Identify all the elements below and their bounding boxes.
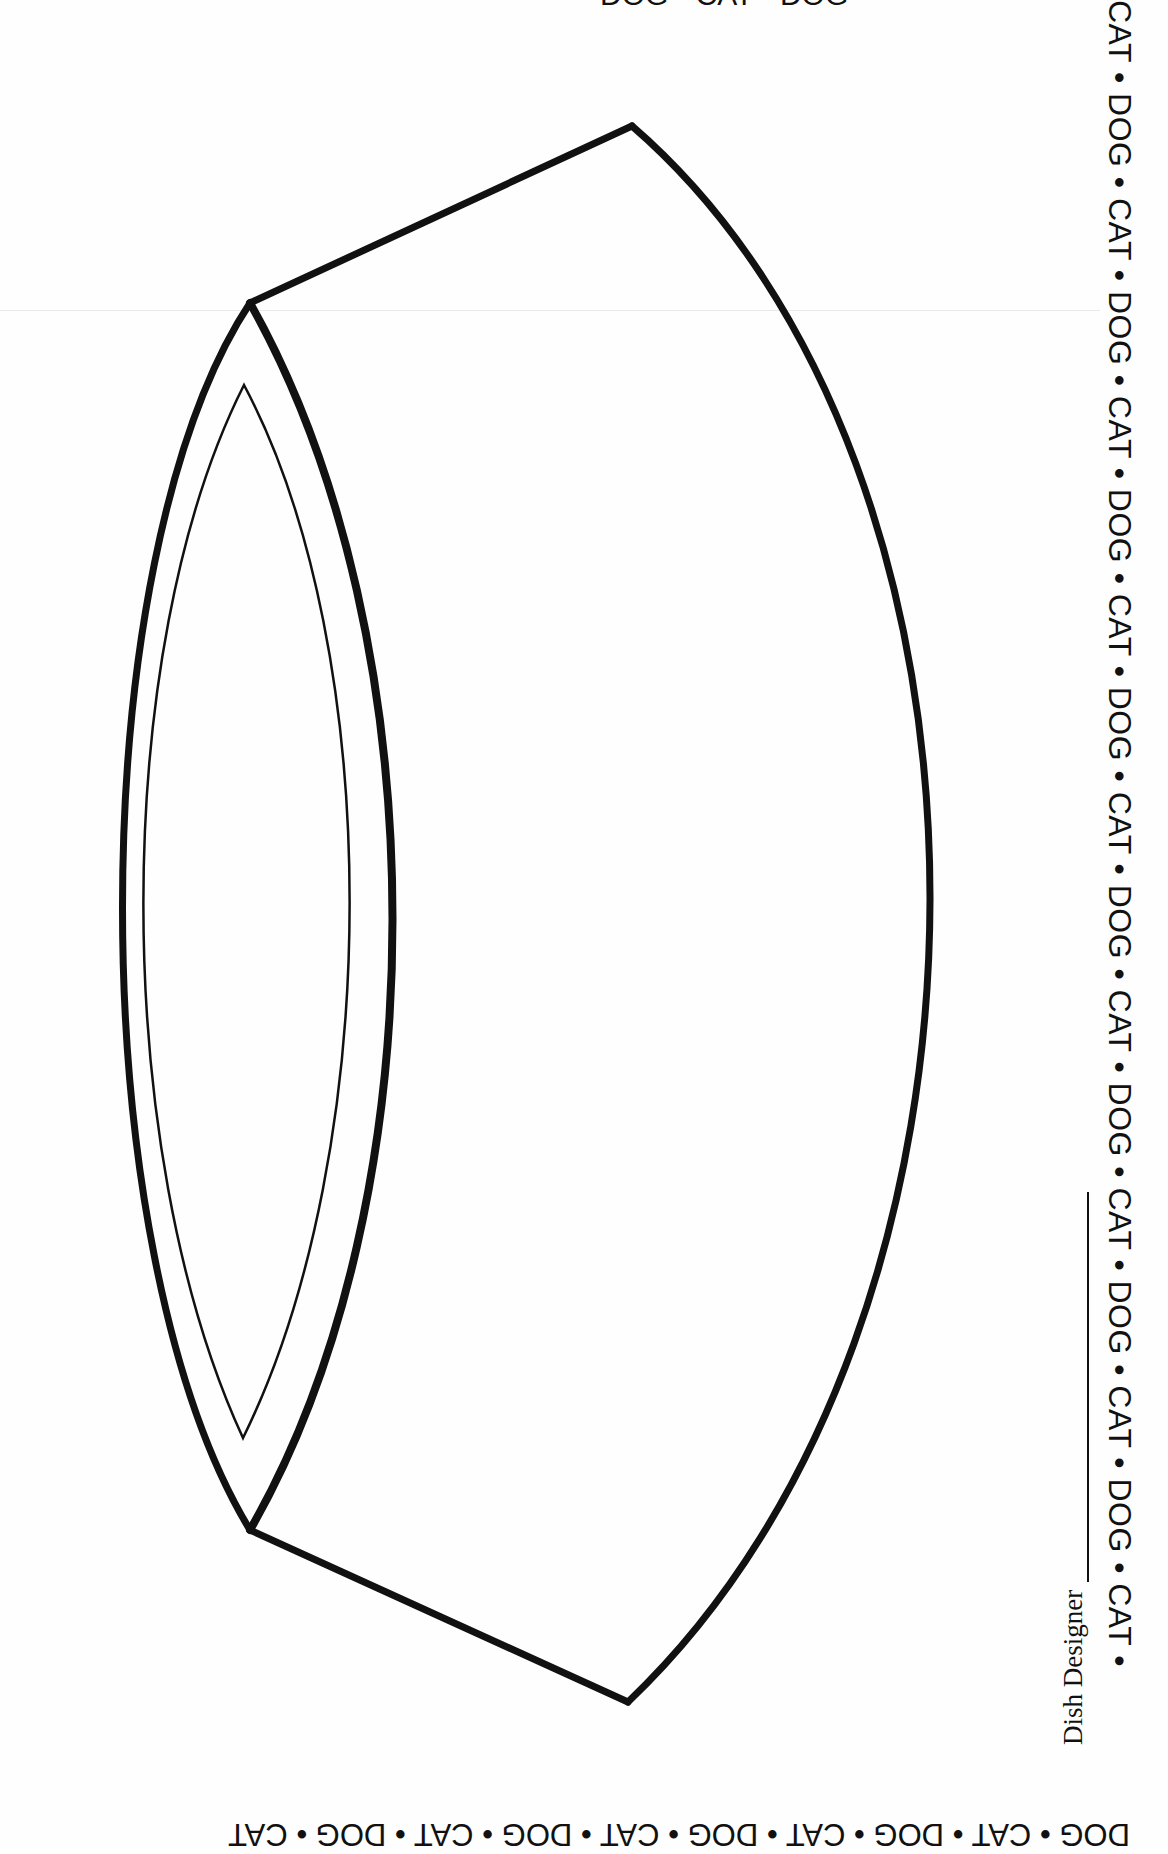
bowl-opening [143, 385, 349, 1438]
bowl-bottom-edge [250, 1530, 628, 1702]
border-text-right: CAT • DOG • CAT • DOG • CAT • DOG • CAT … [1101, 0, 1138, 1854]
bowl-top-edge [250, 126, 632, 303]
designer-label: Dish Designer [1058, 1590, 1089, 1745]
designer-signature-field[interactable]: Dish Designer [1058, 1192, 1089, 1745]
bowl-base [628, 126, 930, 1702]
signature-line[interactable] [1067, 1192, 1089, 1582]
coloring-page: DOG • CAT • DOG CAT • DOG • CAT • DOG • … [0, 0, 1168, 1854]
border-text-bottom: DOG • CAT • DOG • CAT • DOG • CAT • DOG … [228, 1816, 1130, 1852]
pet-bowl-illustration [0, 0, 1168, 1854]
bowl-rim-outer [123, 303, 251, 1530]
bowl-rim-inner-edge [250, 303, 393, 1530]
